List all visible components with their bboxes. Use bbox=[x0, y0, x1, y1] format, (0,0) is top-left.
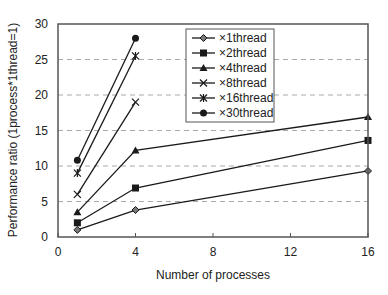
legend-label: ×8thread bbox=[219, 76, 267, 90]
performance-ratio-chart: 051015202530 0481216 Number of processes… bbox=[0, 0, 388, 295]
square-marker-icon bbox=[132, 185, 139, 192]
circle-marker-icon bbox=[132, 35, 139, 42]
y-tick-label: 30 bbox=[35, 17, 49, 31]
square-marker-icon bbox=[200, 50, 207, 57]
x-tick-label: 16 bbox=[361, 245, 375, 259]
x-axis-title: Number of processes bbox=[156, 268, 270, 282]
circle-marker-icon bbox=[74, 157, 81, 164]
star-marker-icon bbox=[74, 169, 81, 177]
x-marker-icon bbox=[74, 191, 81, 198]
circle-marker-icon bbox=[200, 110, 207, 117]
series-line bbox=[73, 113, 372, 215]
x-marker-icon bbox=[132, 99, 139, 106]
y-tick-label: 20 bbox=[35, 88, 49, 102]
x-tick-label: 4 bbox=[132, 245, 139, 259]
y-tick-label: 25 bbox=[35, 53, 49, 67]
x-tick-label: 12 bbox=[284, 245, 298, 259]
series-line bbox=[74, 52, 139, 177]
y-axis-title: Performance ratio (1process*1thread=1) bbox=[6, 23, 20, 237]
diamond-marker-icon bbox=[132, 207, 139, 214]
y-tick-label: 5 bbox=[41, 195, 48, 209]
y-tick-label: 0 bbox=[41, 230, 48, 244]
y-axis-ticks: 051015202530 bbox=[35, 17, 49, 244]
series-line bbox=[74, 167, 372, 233]
legend-label: ×30thread bbox=[219, 106, 273, 120]
legend-label: ×1thread bbox=[219, 31, 267, 45]
y-tick-label: 15 bbox=[35, 124, 49, 138]
diamond-marker-icon bbox=[74, 226, 81, 233]
legend-label: ×16thread bbox=[219, 91, 273, 105]
legend-label: ×2thread bbox=[219, 46, 267, 60]
series-line bbox=[74, 137, 372, 226]
series-line bbox=[74, 35, 139, 164]
x-tick-label: 0 bbox=[55, 245, 62, 259]
legend: ×1thread×2thread×4thread×8thread×16threa… bbox=[186, 29, 274, 122]
y-tick-label: 10 bbox=[35, 159, 49, 173]
x-tick-label: 8 bbox=[210, 245, 217, 259]
square-marker-icon bbox=[74, 219, 81, 226]
star-marker-icon bbox=[132, 52, 139, 60]
legend-label: ×4thread bbox=[219, 61, 267, 75]
